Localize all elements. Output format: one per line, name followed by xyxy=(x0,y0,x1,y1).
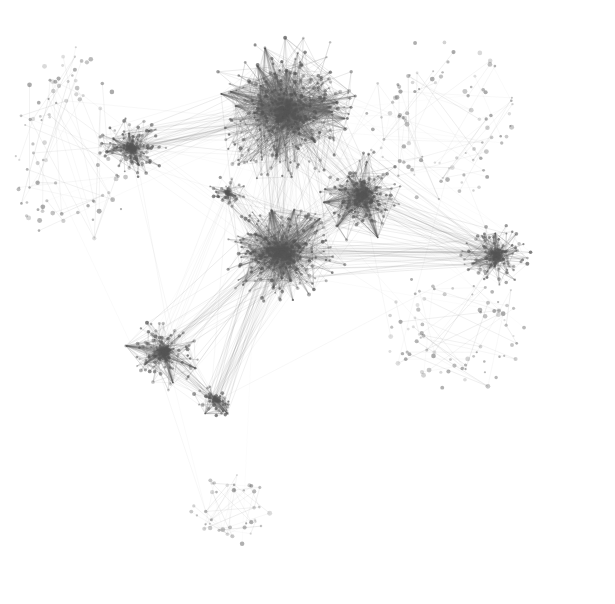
graph-node xyxy=(259,128,262,131)
graph-node xyxy=(249,252,252,255)
graph-node xyxy=(124,344,127,347)
graph-node xyxy=(253,111,256,114)
graph-node xyxy=(330,246,332,248)
graph-node xyxy=(337,214,339,216)
graph-node xyxy=(301,138,304,141)
graph-node xyxy=(61,55,65,59)
graph-node xyxy=(439,74,443,78)
graph-node xyxy=(171,342,173,344)
graph-node xyxy=(234,105,236,107)
graph-node xyxy=(313,120,315,122)
graph-node xyxy=(407,328,410,331)
graph-node xyxy=(26,201,29,204)
graph-node xyxy=(140,327,142,329)
graph-node xyxy=(107,191,110,194)
graph-node xyxy=(482,169,485,172)
graph-node xyxy=(513,278,516,281)
graph-node xyxy=(508,265,511,268)
graph-node xyxy=(361,192,364,195)
graph-node xyxy=(464,368,466,370)
graph-node xyxy=(481,141,483,143)
graph-node xyxy=(462,89,467,94)
graph-node xyxy=(284,160,286,162)
graph-node xyxy=(315,112,317,114)
graph-node xyxy=(73,68,77,72)
graph-node xyxy=(380,177,383,180)
graph-node xyxy=(258,486,261,489)
graph-node xyxy=(276,80,278,82)
graph-node xyxy=(479,157,482,160)
graph-node xyxy=(293,251,296,254)
graph-node xyxy=(286,261,288,263)
graph-node xyxy=(51,89,55,93)
graph-node xyxy=(471,294,473,296)
graph-node xyxy=(364,191,366,193)
graph-node xyxy=(477,186,480,189)
graph-node xyxy=(145,150,149,154)
graph-node xyxy=(242,86,244,88)
graph-node xyxy=(382,215,385,218)
graph-node xyxy=(117,165,120,168)
graph-node xyxy=(216,70,220,74)
graph-node xyxy=(256,110,258,112)
graph-node xyxy=(425,348,428,351)
graph-node xyxy=(360,205,362,207)
graph-node xyxy=(350,209,353,212)
graph-node xyxy=(474,258,477,261)
graph-node xyxy=(230,178,233,181)
graph-node xyxy=(279,83,282,86)
graph-node xyxy=(128,123,131,126)
graph-node xyxy=(302,74,306,78)
graph-node xyxy=(209,385,211,387)
graph-node xyxy=(289,161,292,164)
graph-node xyxy=(385,194,388,197)
graph-node xyxy=(373,200,375,202)
graph-node xyxy=(310,137,313,140)
graph-node xyxy=(247,219,250,222)
graph-node xyxy=(513,335,515,337)
graph-node xyxy=(490,136,494,140)
graph-node xyxy=(289,258,292,261)
graph-node xyxy=(311,264,314,267)
graph-node xyxy=(299,80,301,82)
graph-node xyxy=(168,352,171,355)
graph-node xyxy=(302,120,306,124)
graph-node xyxy=(226,405,229,408)
graph-node xyxy=(228,91,232,95)
graph-node xyxy=(282,224,284,226)
graph-node xyxy=(158,362,161,365)
graph-node xyxy=(282,99,284,101)
graph-node xyxy=(138,358,140,360)
graph-node xyxy=(373,220,377,224)
graph-node xyxy=(123,137,125,139)
graph-node xyxy=(324,188,326,190)
graph-node xyxy=(363,195,366,198)
graph-node xyxy=(233,484,235,486)
graph-node xyxy=(360,182,363,185)
graph-node xyxy=(421,323,425,327)
graph-node xyxy=(509,125,514,130)
graph-node xyxy=(145,129,149,133)
graph-node xyxy=(327,246,330,249)
graph-node xyxy=(229,181,233,185)
graph-node xyxy=(307,292,311,296)
graph-node xyxy=(489,252,492,255)
graph-node xyxy=(273,211,276,214)
graph-node xyxy=(274,109,276,111)
graph-node xyxy=(382,138,385,141)
graph-node xyxy=(294,121,296,123)
graph-node xyxy=(204,413,206,415)
graph-node xyxy=(304,138,307,141)
graph-node xyxy=(389,197,392,200)
graph-node xyxy=(438,198,440,200)
graph-node xyxy=(414,316,417,319)
graph-node xyxy=(215,407,218,410)
graph-node xyxy=(167,389,170,392)
graph-node xyxy=(54,181,57,184)
graph-node xyxy=(506,269,508,271)
graph-node xyxy=(295,272,297,274)
graph-node xyxy=(365,186,369,190)
graph-node xyxy=(526,257,529,260)
graph-node xyxy=(251,258,254,261)
graph-node xyxy=(474,237,478,241)
